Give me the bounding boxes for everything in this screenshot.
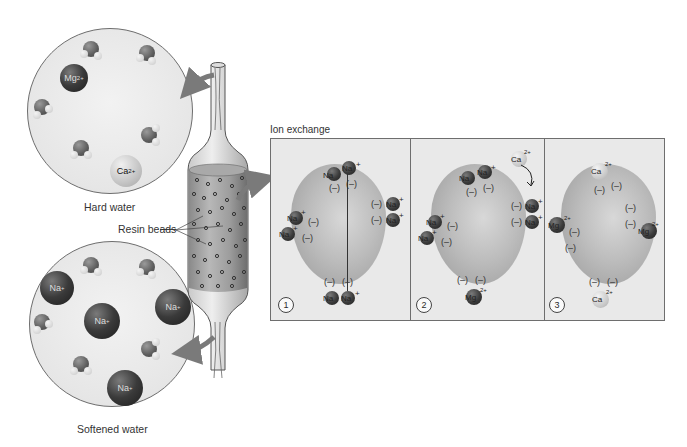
arrow-to-softened-water-icon bbox=[186, 337, 214, 352]
step-number-2: 2 bbox=[416, 297, 432, 313]
resin-bead bbox=[561, 164, 656, 284]
panel-divider bbox=[410, 139, 411, 320]
step-number-3: 3 bbox=[549, 297, 565, 313]
panel-divider bbox=[544, 139, 545, 320]
arrow-to-ion-exchange-icon bbox=[238, 180, 262, 200]
step-number-1: 1 bbox=[278, 297, 294, 313]
resin-cross-section-line bbox=[347, 171, 348, 291]
curved-arrow-icon bbox=[519, 163, 539, 189]
arrow-to-hard-water-icon bbox=[190, 75, 214, 88]
ion-exchange-panel: Na Na+ (–) (–) Na+ Na+ (–) (–) (–) (–) N… bbox=[270, 138, 665, 321]
ion-exchange-title: Ion exchange bbox=[270, 124, 330, 135]
